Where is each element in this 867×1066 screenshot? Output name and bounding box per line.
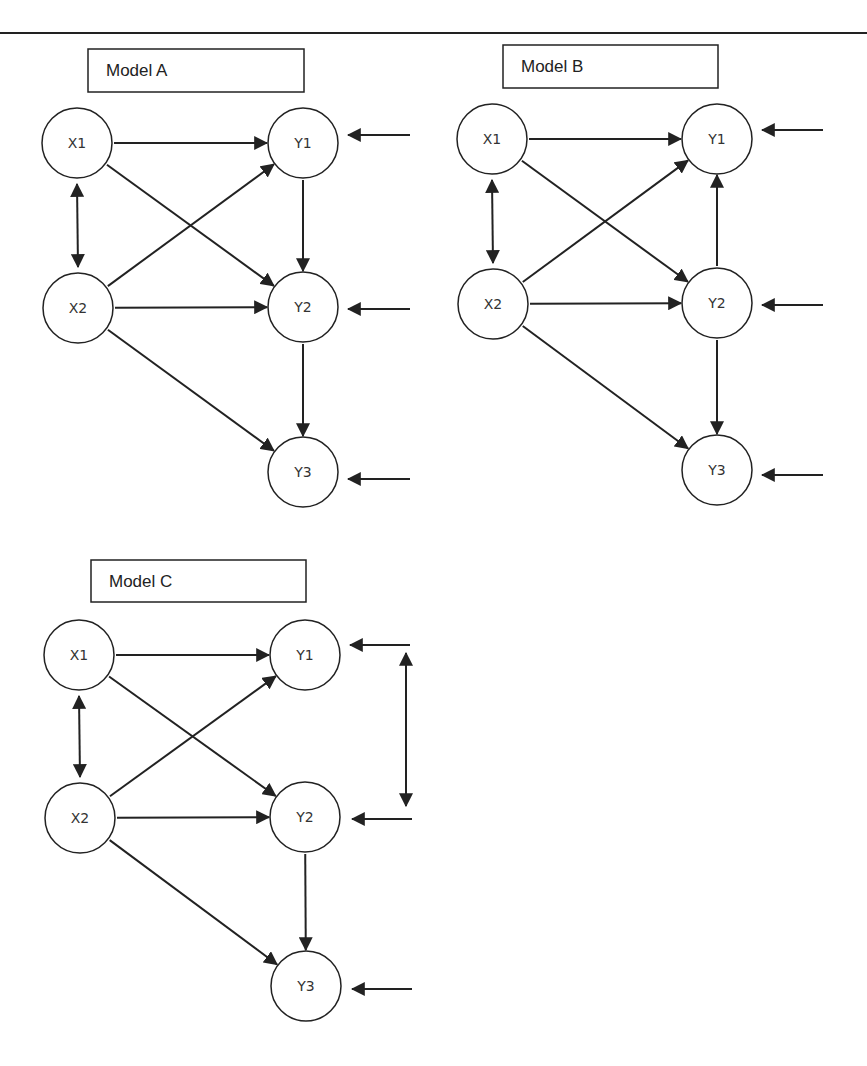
path-x2-y2 xyxy=(117,817,269,818)
covariance-x1-x2 xyxy=(79,696,80,777)
node-x1: X1 xyxy=(44,620,114,690)
node-y2: Y2 xyxy=(270,782,340,852)
model-title: Model B xyxy=(521,57,583,76)
node-label: Y2 xyxy=(293,299,311,315)
node-x2: X2 xyxy=(45,783,115,853)
node-label: Y1 xyxy=(293,135,311,151)
model-a: Model AX1X2Y1Y2Y3 xyxy=(42,49,410,507)
covariance-x1-x2 xyxy=(77,184,78,267)
node-x1: X1 xyxy=(457,104,527,174)
node-x2: X2 xyxy=(43,273,113,343)
path-x2-y2 xyxy=(115,307,267,308)
node-label: Y2 xyxy=(295,809,313,825)
node-y2: Y2 xyxy=(682,268,752,338)
model-title: Model C xyxy=(109,572,172,591)
node-label: X2 xyxy=(484,296,503,312)
covariance-x1-x2 xyxy=(492,180,493,263)
node-y1: Y1 xyxy=(270,620,340,690)
node-label: X1 xyxy=(483,131,502,147)
node-y3: Y3 xyxy=(271,951,341,1021)
node-label: X2 xyxy=(69,300,88,316)
model-title: Model A xyxy=(106,61,168,80)
model-b: Model BX1X2Y1Y2Y3 xyxy=(457,45,823,505)
path-x2-y3 xyxy=(108,330,274,451)
node-label: Y2 xyxy=(707,295,725,311)
node-y3: Y3 xyxy=(268,437,338,507)
model-c: Model CX1X2Y1Y2Y3 xyxy=(44,560,412,1021)
node-label: X1 xyxy=(68,135,87,151)
node-label: X1 xyxy=(70,647,89,663)
node-label: Y1 xyxy=(295,647,313,663)
node-x1: X1 xyxy=(42,108,112,178)
node-y3: Y3 xyxy=(682,435,752,505)
node-y2: Y2 xyxy=(268,272,338,342)
node-label: Y3 xyxy=(296,978,314,994)
models-layer: Model AX1X2Y1Y2Y3Model BX1X2Y1Y2Y3Model … xyxy=(42,45,823,1021)
node-label: X2 xyxy=(71,810,90,826)
path-x2-y2 xyxy=(530,303,681,304)
path-diagram-canvas: Model AX1X2Y1Y2Y3Model BX1X2Y1Y2Y3Model … xyxy=(0,0,867,1066)
path-y2-y3 xyxy=(305,854,306,950)
path-x2-y3 xyxy=(110,840,277,964)
node-label: Y1 xyxy=(707,131,725,147)
node-label: Y3 xyxy=(293,464,311,480)
node-label: Y3 xyxy=(707,462,725,478)
node-y1: Y1 xyxy=(682,104,752,174)
node-y1: Y1 xyxy=(268,108,338,178)
path-x2-y3 xyxy=(523,326,688,449)
node-x2: X2 xyxy=(458,269,528,339)
